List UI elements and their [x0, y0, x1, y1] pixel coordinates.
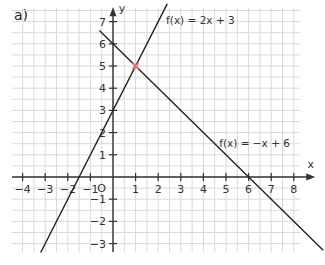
y-tick-label: 1	[99, 149, 106, 162]
y-tick-label: 4	[99, 82, 106, 95]
x-tick-label: 3	[177, 183, 184, 196]
y-axis-arrow-icon	[110, 7, 117, 16]
x-tick-label: 2	[155, 183, 162, 196]
x-tick-label: 6	[245, 183, 252, 196]
y-tick-label: 2	[99, 127, 106, 140]
function-graph: −4−3−2−112345678−3−2−11234567Oxyf(x) = 2…	[0, 0, 325, 265]
y-tick-label: 7	[99, 16, 106, 29]
x-tick-label: 8	[290, 183, 297, 196]
grid	[12, 8, 300, 252]
x-axis-arrow-icon	[306, 174, 315, 181]
x-tick-label: 4	[200, 183, 207, 196]
function-label-1: f(x) = 2x + 3	[166, 14, 235, 26]
x-tick-label: 1	[132, 183, 139, 196]
x-tick-label: −3	[37, 183, 53, 196]
y-tick-label: −2	[90, 215, 106, 228]
y-tick-label: 5	[99, 60, 106, 73]
y-tick-label: −3	[90, 238, 106, 251]
y-tick-label: 3	[99, 104, 106, 117]
y-tick-label: −1	[90, 193, 106, 206]
x-tick-label: 7	[268, 183, 275, 196]
x-axis-label: x	[307, 158, 314, 171]
function-label-2: f(x) = −x + 6	[219, 137, 290, 149]
x-tick-label: −4	[14, 183, 30, 196]
x-tick-label: 5	[223, 183, 230, 196]
origin-label: O	[97, 182, 106, 195]
y-tick-label: 6	[99, 38, 106, 51]
y-axis-label: y	[119, 2, 126, 15]
